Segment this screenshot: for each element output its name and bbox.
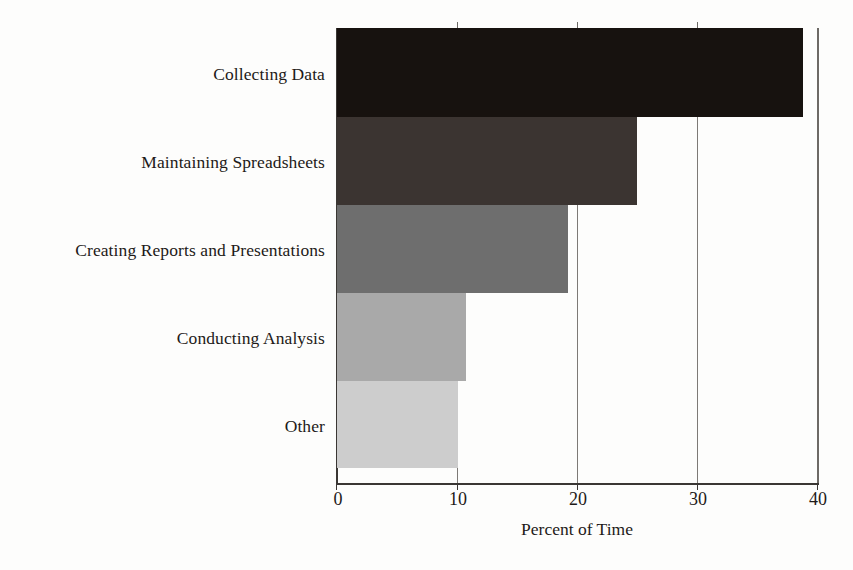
bar-chart: Collecting Data Maintaining Spreadsheets…: [0, 0, 853, 570]
right-axis-line: [817, 28, 819, 485]
x-tick-label-40: 40: [809, 490, 827, 508]
plot-area: [336, 28, 818, 485]
category-label-creating-reports-and-presentations: Creating Reports and Presentations: [0, 242, 325, 260]
bar-other: [337, 381, 458, 468]
x-tick-label-0: 0: [334, 490, 343, 508]
x-axis-title: Percent of Time: [336, 521, 818, 539]
category-label-conducting-analysis: Conducting Analysis: [0, 330, 325, 348]
x-tick-label-30: 30: [689, 490, 707, 508]
category-label-collecting-data: Collecting Data: [0, 66, 325, 84]
x-tick-label-10: 10: [449, 490, 467, 508]
bar-collecting-data: [337, 28, 803, 117]
x-tick-label-20: 20: [569, 490, 587, 508]
bar-conducting-analysis: [337, 293, 466, 381]
bar-maintaining-spreadsheets: [337, 117, 637, 205]
bar-creating-reports-and-presentations: [337, 205, 568, 293]
category-label-other: Other: [0, 418, 325, 436]
category-axis-labels: Collecting Data Maintaining Spreadsheets…: [0, 28, 325, 468]
category-label-maintaining-spreadsheets: Maintaining Spreadsheets: [0, 154, 325, 172]
